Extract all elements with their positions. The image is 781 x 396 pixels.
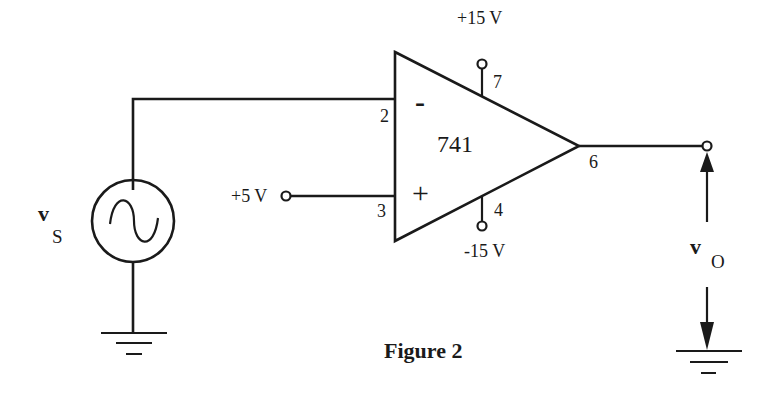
opamp-triangle bbox=[395, 52, 579, 241]
reference-input-label: +5 V bbox=[231, 186, 267, 206]
supply-pos-label: +15 V bbox=[457, 8, 502, 28]
inverting-symbol: - bbox=[415, 85, 425, 118]
supply-neg-label: -15 V bbox=[464, 241, 505, 261]
vo-arrow-up-head bbox=[700, 152, 714, 172]
output-label-sub: O bbox=[711, 251, 725, 272]
pin-4-label: 4 bbox=[494, 200, 503, 220]
pin-3-label: 3 bbox=[377, 201, 386, 221]
pin-7-label: 7 bbox=[493, 72, 502, 92]
source-label-sub: S bbox=[52, 226, 63, 247]
figure-caption: Figure 2 bbox=[384, 338, 462, 363]
vo-arrow-down-head bbox=[700, 322, 714, 350]
pin-6-label: 6 bbox=[589, 152, 598, 172]
ground-icon-output bbox=[676, 351, 742, 373]
terminal-plus5v bbox=[282, 192, 291, 201]
wire-inverting-input bbox=[133, 99, 395, 190]
output-label-v: v bbox=[690, 234, 701, 259]
source-label-v: v bbox=[38, 201, 49, 226]
opamp-model-label: 741 bbox=[437, 131, 473, 157]
sine-wave-icon bbox=[110, 200, 158, 241]
ground-icon-source bbox=[101, 333, 167, 354]
noninverting-symbol: + bbox=[412, 176, 429, 209]
terminal-vneg bbox=[478, 222, 487, 231]
pin-2-label: 2 bbox=[380, 106, 389, 126]
circuit-diagram: +15 V 7 2 - 741 + 3 4 -15 V 6 +5 V v S v… bbox=[0, 0, 781, 396]
terminal-vpos bbox=[478, 60, 487, 69]
terminal-output bbox=[703, 142, 712, 151]
